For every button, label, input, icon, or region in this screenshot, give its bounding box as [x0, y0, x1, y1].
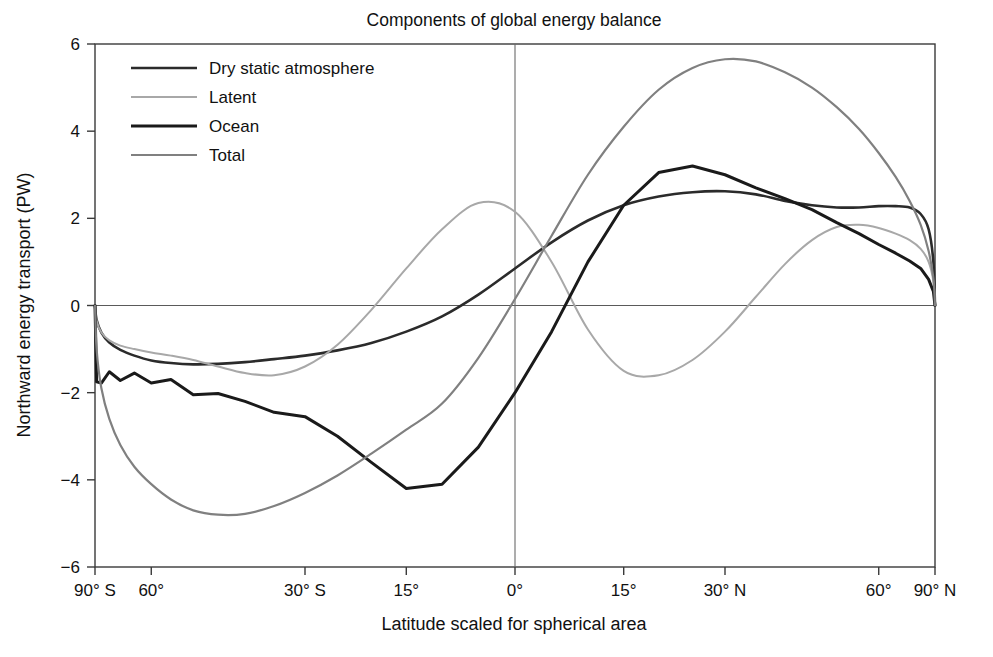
x-tick-label-1: 60°	[138, 581, 164, 600]
x-tick-label-6: 30° N	[704, 581, 747, 600]
y-tick-label-2: 2	[71, 209, 80, 228]
legend-label-2: Ocean	[209, 117, 259, 136]
y-tick-label-0: 6	[71, 35, 80, 54]
x-axis-title: Latitude scaled for spherical area	[381, 614, 647, 634]
chart-figure: 90° S60°30° S15°0°15°30° N60°90° N 6420−…	[0, 0, 993, 657]
legend-label-0: Dry static atmosphere	[209, 59, 374, 78]
x-tick-label-8: 90° N	[914, 581, 957, 600]
y-tick-label-5: −4	[61, 471, 80, 490]
y-tick-label-6: −6	[61, 558, 80, 577]
y-axis-title: Northward energy transport (PW)	[14, 172, 34, 437]
x-tick-label-5: 15°	[611, 581, 637, 600]
chart-title: Components of global energy balance	[367, 10, 662, 30]
x-tick-label-7: 60°	[866, 581, 892, 600]
y-tick-labels: 6420−2−4−6	[61, 35, 80, 577]
y-tick-label-3: 0	[71, 297, 80, 316]
x-tick-label-0: 90° S	[74, 581, 116, 600]
y-tick-label-4: −2	[61, 384, 80, 403]
x-tick-label-3: 15°	[393, 581, 419, 600]
x-tick-label-2: 30° S	[284, 581, 326, 600]
y-tick-label-1: 4	[71, 122, 80, 141]
energy-balance-line-chart: 90° S60°30° S15°0°15°30° N60°90° N 6420−…	[0, 0, 993, 657]
legend-label-1: Latent	[209, 88, 257, 107]
chart-legend: Dry static atmosphereLatentOceanTotal	[131, 59, 374, 165]
x-tick-labels: 90° S60°30° S15°0°15°30° N60°90° N	[74, 581, 956, 600]
legend-label-3: Total	[209, 146, 245, 165]
x-tick-label-4: 0°	[507, 581, 523, 600]
